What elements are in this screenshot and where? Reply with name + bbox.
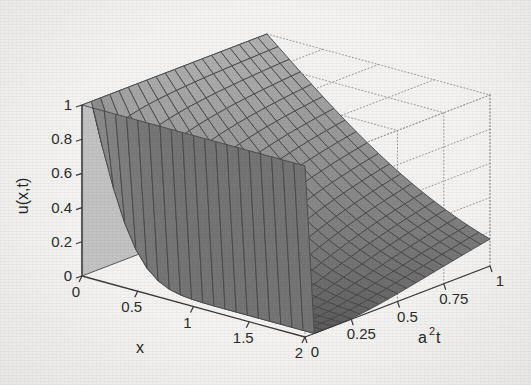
z-tick-0.8: 0.8 xyxy=(51,130,72,147)
z-axis-label: u(x,t) xyxy=(14,178,31,214)
t-tick-0.5: 0.5 xyxy=(397,308,418,325)
z-tick-0.2: 0.2 xyxy=(51,233,72,250)
x-tick-1.5: 1.5 xyxy=(233,329,254,346)
y-axis-label-suffix: t xyxy=(436,329,441,346)
z-axis-label-text: u(x,t) xyxy=(14,178,31,214)
x-axis-label-text: x xyxy=(136,339,144,356)
x-tick-2: 2 xyxy=(295,344,303,361)
x-axis-label: x xyxy=(136,339,144,356)
z-tick-0.6: 0.6 xyxy=(51,164,72,181)
z-tick-0: 0 xyxy=(64,267,72,284)
y-axis-label-base: a xyxy=(418,329,427,346)
t-tick-1: 1 xyxy=(496,272,504,289)
t-tick-0.75: 0.75 xyxy=(439,290,468,307)
y-axis-label-exponent: 2 xyxy=(429,325,435,337)
t-tick-0: 0 xyxy=(311,343,319,360)
x-tick-0: 0 xyxy=(72,283,80,300)
z-tick-1: 1 xyxy=(64,96,72,113)
x-tick-0.5: 0.5 xyxy=(121,298,142,315)
surface-plot-figure: 00.20.40.60.8100.511.5200.250.50.751 u(x… xyxy=(0,0,531,385)
x-tick-1: 1 xyxy=(183,314,191,331)
t-tick-0.25: 0.25 xyxy=(347,325,376,342)
z-tick-0.4: 0.4 xyxy=(51,199,72,216)
